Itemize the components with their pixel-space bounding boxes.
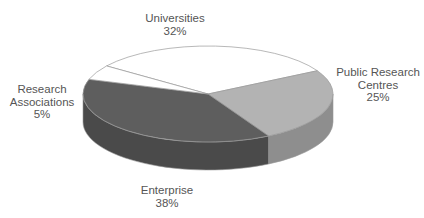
label-ra-name-2: Associations [6, 96, 78, 109]
label-universities-value: 32% [140, 25, 210, 38]
label-enterprise-value: 38% [132, 197, 202, 210]
label-public-research-centres: Public Research Centres 25% [336, 66, 420, 104]
label-universities-name: Universities [140, 12, 210, 25]
label-research-associations: Research Associations 5% [6, 83, 78, 121]
label-enterprise-name: Enterprise [132, 184, 202, 197]
label-universities: Universities 32% [140, 12, 210, 37]
label-ra-value: 5% [6, 108, 78, 121]
label-prc-name-2: Centres [336, 79, 420, 92]
label-ra-name-1: Research [6, 83, 78, 96]
label-prc-value: 25% [336, 91, 420, 104]
label-enterprise: Enterprise 38% [132, 184, 202, 209]
label-prc-name-1: Public Research [336, 66, 420, 79]
